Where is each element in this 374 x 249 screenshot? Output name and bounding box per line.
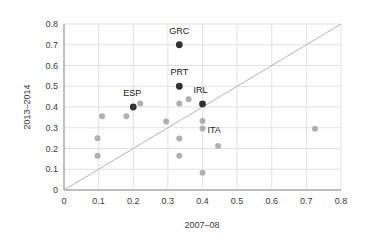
point-label-ita: ITA xyxy=(207,126,220,135)
x-tick-label: 0.8 xyxy=(335,197,348,206)
y-tick-label: 0.5 xyxy=(45,82,58,91)
x-axis-title: 2007–08 xyxy=(184,220,219,230)
data-point xyxy=(123,113,129,119)
x-tick-label: 0.1 xyxy=(92,197,105,206)
data-point xyxy=(95,153,101,159)
data-points-layer xyxy=(95,41,318,175)
data-point xyxy=(163,119,169,125)
data-point-irl xyxy=(199,100,206,107)
y-tick-label: 0.6 xyxy=(45,61,58,70)
point-label-prt: PRT xyxy=(170,68,188,77)
data-point xyxy=(312,126,318,132)
data-point xyxy=(176,100,182,106)
point-label-esp: ESP xyxy=(123,89,141,98)
data-point xyxy=(200,118,206,124)
y-tick-label: 0.3 xyxy=(45,123,58,132)
data-point-grc xyxy=(176,41,183,48)
x-tick-label: 0.4 xyxy=(196,197,209,206)
x-tick-label: 0.5 xyxy=(231,197,244,206)
data-point xyxy=(176,153,182,159)
scatter-chart-figure: 00.10.20.30.40.50.60.70.800.10.20.30.40.… xyxy=(0,0,374,249)
x-tick-label: 0.6 xyxy=(265,197,278,206)
y-tick-label: 0.2 xyxy=(45,144,58,153)
y-tick-label: 0 xyxy=(53,186,58,195)
point-label-irl: IRL xyxy=(193,86,207,95)
data-point xyxy=(200,170,206,176)
data-point xyxy=(95,135,101,141)
x-tick-label: 0 xyxy=(61,197,66,206)
x-tick-label: 0.7 xyxy=(300,197,313,206)
x-tick-label: 0.3 xyxy=(162,197,175,206)
y-tick-label: 0.7 xyxy=(45,40,58,49)
data-point xyxy=(186,96,192,102)
y-tick-label: 0.1 xyxy=(45,165,58,174)
y-tick-label: 0.4 xyxy=(45,103,58,112)
point-label-grc: GRC xyxy=(169,27,189,36)
y-axis-title: 2013–2014 xyxy=(22,84,32,129)
data-point-ita xyxy=(215,143,221,149)
data-point xyxy=(99,113,105,119)
data-point xyxy=(137,100,143,106)
data-point xyxy=(200,126,206,132)
y-tick-label: 0.8 xyxy=(45,20,58,29)
x-tick-label: 0.2 xyxy=(127,197,140,206)
data-point-esp xyxy=(130,104,137,111)
data-point-prt xyxy=(176,83,183,90)
data-point xyxy=(176,136,182,142)
